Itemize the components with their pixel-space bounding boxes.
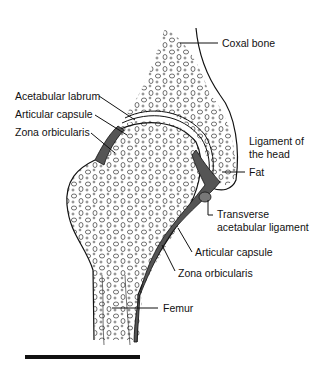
label-ligament-of-head-line1: Ligament of xyxy=(249,135,304,147)
label-coxal-bone: Coxal bone xyxy=(222,37,275,49)
label-zona-orbicularis-top: Zona orbicularis xyxy=(15,126,90,138)
label-femur: Femur xyxy=(163,302,193,314)
label-transverse-line1: Transverse xyxy=(217,208,269,220)
scale-bar xyxy=(25,355,140,359)
label-ligament-of-head-line2: the head xyxy=(249,148,290,160)
hip-joint-diagram xyxy=(0,0,322,365)
label-transverse-line2: acetabular ligament xyxy=(217,221,309,233)
label-acetabular-labrum: Acetabular labrum xyxy=(15,90,100,102)
label-fat: Fat xyxy=(249,166,264,178)
label-articular-capsule-top: Articular capsule xyxy=(15,108,93,120)
label-articular-capsule-bottom: Articular capsule xyxy=(195,246,273,258)
label-zona-orbicularis-bottom: Zona orbicularis xyxy=(178,267,253,279)
